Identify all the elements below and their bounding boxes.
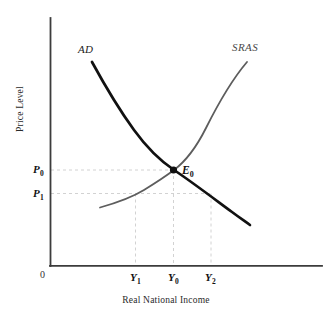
y-tick-p1-letter: P [33,187,40,199]
x-tick-y0-letter: Y [168,271,175,283]
x-tick-y2-letter: Y [205,271,212,283]
x-tick-label-y2: Y2 [205,272,215,283]
y-axis-title-text: Price Level [15,86,25,132]
x-tick-label-y0: Y0 [168,272,178,283]
equilibrium-point-marker [170,166,177,173]
sras-curve [100,62,247,208]
y-tick-label-p0: P0 [33,164,43,175]
y-tick-p1-subscript: 1 [40,193,44,202]
y-axis-title: Price Level [9,69,27,149]
equilibrium-point-label: E0 [182,165,194,177]
x-tick-y1-subscript: 1 [137,277,141,286]
axes [50,18,322,266]
x-tick-y0-subscript: 0 [175,277,179,286]
x-axis-title-text: Real National Income [122,295,209,305]
x-tick-label-y1: Y1 [130,272,140,283]
ad-curve-label: AD [78,44,93,55]
ad-sras-chart: Price Level Real National Income 0 P0 P1… [0,0,332,311]
x-tick-y1-letter: Y [130,271,137,283]
equilibrium-letter: E [182,164,190,176]
y-tick-label-p1: P1 [33,188,43,199]
origin-label: 0 [40,270,45,280]
equilibrium-subscript: 0 [190,170,194,179]
y-tick-p0-letter: P [33,163,40,175]
x-axis-title: Real National Income [0,289,332,307]
ad-curve [92,62,250,225]
y-tick-p0-subscript: 0 [40,169,44,178]
chart-canvas [0,0,332,311]
guide-lines [51,170,211,265]
x-tick-y2-subscript: 2 [212,277,216,286]
sras-curve-label: SRAS [232,42,258,53]
